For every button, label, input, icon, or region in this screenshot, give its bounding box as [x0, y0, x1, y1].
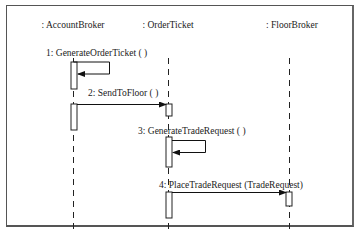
message-3-arrow	[172, 141, 206, 153]
activation-accountbroker-1	[71, 62, 77, 89]
activation-floorbroker	[286, 192, 292, 206]
sequence-diagram-canvas	[0, 0, 358, 237]
activation-orderticket-1	[166, 104, 172, 116]
activation-orderticket-3	[166, 192, 172, 218]
activation-accountbroker-2	[71, 104, 77, 130]
activation-orderticket-2	[166, 137, 172, 167]
message-1-arrow	[74, 62, 110, 74]
